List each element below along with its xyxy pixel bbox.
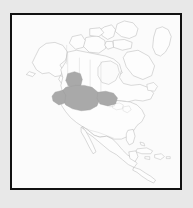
north-america-map — [12, 15, 180, 188]
map-frame — [10, 13, 182, 190]
figure-root — [0, 0, 193, 208]
aleutian-islands — [27, 72, 36, 77]
newfoundland-island — [147, 82, 158, 91]
hispaniola-island — [155, 154, 165, 160]
bahamas-islands — [140, 142, 145, 146]
arctic-island-prince-of-wales — [105, 41, 114, 49]
puerto-rico-island — [166, 157, 170, 159]
central-america-landmass — [133, 167, 155, 183]
highlight-region-west-extension — [52, 90, 66, 105]
florida-peninsula — [126, 129, 135, 145]
arctic-island-baffin — [123, 50, 154, 79]
jamaica-island — [145, 157, 150, 160]
arctic-island-banks — [70, 35, 86, 50]
arctic-island-devon — [114, 39, 133, 50]
cuba-island — [136, 148, 153, 154]
arctic-island-ellesmere — [116, 21, 138, 39]
arctic-island-victoria — [83, 36, 105, 54]
greenland-landmass — [153, 27, 172, 56]
